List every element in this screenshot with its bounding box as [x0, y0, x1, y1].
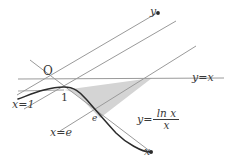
tick-label-one: 1 — [61, 92, 68, 103]
curve-lnx-over-x — [18, 87, 150, 152]
curve-equation-fraction: ln x x — [153, 108, 179, 131]
plane-x-equals-e-label: x=e — [50, 127, 72, 138]
origin-label: O — [43, 65, 53, 77]
curve-equation-label: y= ln x x — [137, 108, 179, 131]
curve-equation-denominator: x — [161, 120, 171, 131]
curve-equation-numerator: ln x — [155, 108, 178, 119]
axis-label-x: x — [144, 146, 150, 157]
tick-label-e: e — [92, 114, 97, 123]
y-axis-arrow-dot — [156, 11, 160, 15]
plane-x-equals-1-label: x=1 — [12, 99, 34, 110]
math-figure: y x O 1 e x=1 x=e y=x y= ln x x — [0, 0, 230, 166]
line-y-equals-x-label: y=x — [192, 72, 214, 83]
curve-equation-lead: y= — [137, 114, 152, 125]
axis-label-y: y — [150, 6, 156, 17]
